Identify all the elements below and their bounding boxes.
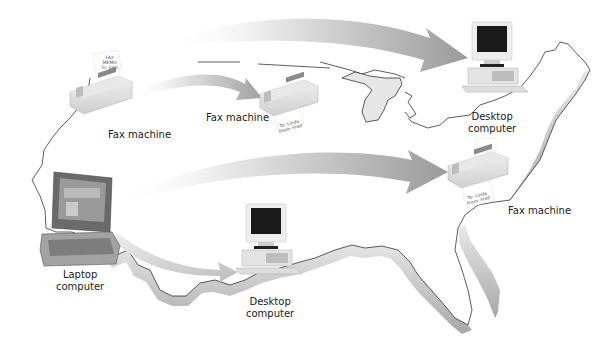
label-laptop-line1: Laptop (56, 269, 104, 281)
arrow-fax-to-desktop-northeast (170, 19, 468, 72)
label-desktop-northeast-line2: computer (468, 123, 516, 135)
laptop-computer-icon (40, 172, 120, 266)
label-desktop-south: Desktop computer (246, 296, 294, 320)
desktop-computer-south-icon (236, 204, 302, 274)
label-fax-machine-west: Fax machine (108, 129, 171, 141)
label-desktop-northeast-line1: Desktop (468, 111, 516, 123)
label-desktop-northeast: Desktop computer (468, 111, 516, 135)
connection-arrows (112, 19, 468, 282)
label-desktop-south-line1: Desktop (246, 296, 294, 308)
arrow-laptop-to-fax-east (115, 150, 448, 206)
label-fax-machine-east: Fax machine (508, 205, 571, 217)
network-map-diagram: Fax machine Fax machine Desktop computer… (0, 0, 605, 338)
desktop-computer-northeast-icon (462, 22, 528, 92)
fax-paper-west: FAX MEMO To: John (101, 55, 118, 70)
label-laptop: Laptop computer (56, 269, 104, 293)
label-desktop-south-line2: computer (246, 308, 294, 320)
fax-paper-west-line3: To: John (101, 65, 118, 70)
label-laptop-line2: computer (56, 281, 104, 293)
arrow-fax-to-fax-midwest (130, 74, 262, 100)
label-fax-machine-midwest: Fax machine (206, 112, 269, 124)
